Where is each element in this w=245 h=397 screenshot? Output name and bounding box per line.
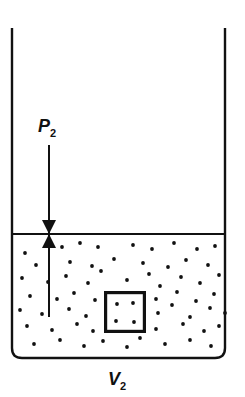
inner-box-group <box>106 293 145 332</box>
particle-dot <box>188 315 192 319</box>
particle-dot <box>195 247 199 251</box>
volume-label-subscript: 2 <box>120 380 126 392</box>
particle-dot <box>125 345 129 349</box>
particle-dot <box>23 251 27 255</box>
particle-dot <box>179 275 183 279</box>
particle-dot <box>212 292 216 296</box>
particle-dot <box>60 245 64 249</box>
particle-dot <box>25 324 29 328</box>
particle-dot <box>147 272 151 276</box>
particle-dot <box>67 307 71 311</box>
particle-dot <box>32 342 36 346</box>
pressure-label-subscript: 2 <box>50 127 56 139</box>
particle-dot <box>58 338 62 342</box>
particle-dot <box>175 290 179 294</box>
particle-dot <box>34 263 38 267</box>
particle-dot <box>68 260 72 264</box>
diagram-canvas: P2V2 <box>0 0 245 397</box>
particle-dot <box>208 306 212 310</box>
particle-dot <box>40 312 44 316</box>
particle-dot <box>206 263 210 267</box>
particle-dot <box>18 308 22 312</box>
particle-dot <box>158 284 162 288</box>
particle-dot <box>86 281 90 285</box>
particle-dot <box>96 245 100 249</box>
particle-dot <box>194 299 198 303</box>
particle-dot <box>163 342 167 346</box>
particle-dot <box>202 329 206 333</box>
particle-dot <box>131 243 135 247</box>
particle-dot <box>217 324 221 328</box>
particle-dot <box>90 264 94 268</box>
particle-dot <box>198 281 202 285</box>
pressure-arrow-group <box>42 145 56 317</box>
particle-dot <box>141 261 145 265</box>
inner-box-particle-dot <box>115 302 119 306</box>
particle-dot <box>101 339 105 343</box>
particle-dot <box>78 241 82 245</box>
particle-dot <box>20 276 24 280</box>
particle-dot <box>64 274 68 278</box>
arrowhead-up-icon <box>42 234 56 248</box>
particle-dot <box>188 338 192 342</box>
particle-dot <box>166 265 170 269</box>
labels-group: P2V2 <box>38 116 126 392</box>
particle-dot <box>112 257 116 261</box>
inner-box-particle-dot <box>132 320 136 324</box>
inner-box-particle-dot <box>114 319 118 323</box>
particle-dot <box>170 303 174 307</box>
arrowhead-down-icon <box>42 220 56 234</box>
particle-dot <box>156 311 160 315</box>
particle-dot <box>213 244 217 248</box>
particle-dot <box>28 294 32 298</box>
particle-dot <box>82 344 86 348</box>
inner-box-particle-dot <box>131 301 135 305</box>
particle-dot <box>75 322 79 326</box>
particle-dot <box>150 247 154 251</box>
particle-dot <box>125 278 129 282</box>
particle-dot <box>154 297 158 301</box>
particle-dot <box>209 344 213 348</box>
particle-dot <box>84 314 88 318</box>
particle-dot <box>93 298 97 302</box>
particle-dot <box>217 273 221 277</box>
particle-dot <box>172 241 176 245</box>
inner-box-outline <box>106 293 145 332</box>
particle-dot <box>99 269 103 273</box>
particle-dot <box>181 322 185 326</box>
particle-dot <box>72 291 76 295</box>
particle-dot <box>223 311 227 315</box>
particle-dot <box>91 329 95 333</box>
particle-dot <box>50 328 54 332</box>
particle-dot <box>154 327 158 331</box>
physics-diagram-figure: P2V2 <box>0 0 245 397</box>
particle-dot <box>55 297 59 301</box>
particle-dot <box>184 258 188 262</box>
particle-dot <box>138 336 142 340</box>
